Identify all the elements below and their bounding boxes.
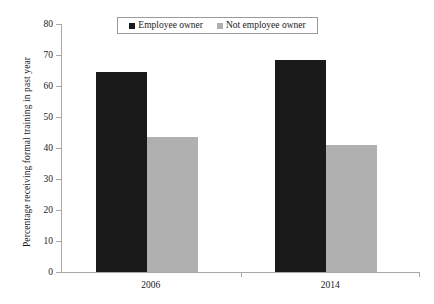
y-tick-label: 30 xyxy=(29,175,53,185)
y-tick-label: 10 xyxy=(29,237,53,247)
bar-chart: Employee owner Not employee owner Percen… xyxy=(0,0,434,304)
bar xyxy=(326,145,377,272)
y-tick-label: 20 xyxy=(29,206,53,216)
y-tick-label: 80 xyxy=(29,20,53,30)
y-tick-label: 0 xyxy=(29,268,53,278)
y-tick-label: 40 xyxy=(29,144,53,154)
y-tick-mark xyxy=(56,272,61,273)
bar xyxy=(275,60,326,272)
bar xyxy=(96,72,147,272)
y-tick-label: 50 xyxy=(29,113,53,123)
y-tick-label: 70 xyxy=(29,51,53,61)
plot-area xyxy=(61,24,420,272)
x-axis-end-tick xyxy=(419,272,420,277)
bar xyxy=(147,137,198,272)
x-tick-mark xyxy=(241,272,242,277)
x-category-label: 2014 xyxy=(321,280,340,290)
y-tick-label: 60 xyxy=(29,82,53,92)
x-category-label: 2006 xyxy=(141,280,160,290)
